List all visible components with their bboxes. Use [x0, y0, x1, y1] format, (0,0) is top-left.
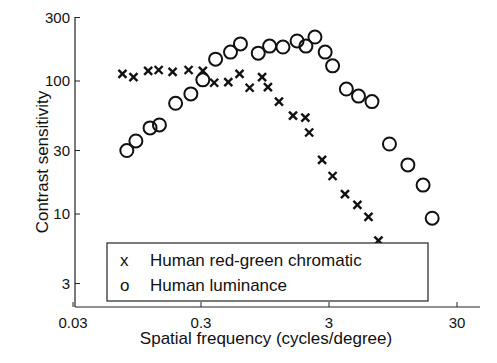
luminance-point — [365, 95, 378, 108]
chromatic-point — [329, 172, 337, 180]
x-tick-label: 0.03 — [58, 314, 87, 331]
luminance-point — [417, 179, 430, 192]
chromatic-point — [275, 98, 283, 106]
chromatic-point — [155, 66, 163, 74]
luminance-point — [129, 134, 142, 147]
luminance-point — [263, 40, 276, 53]
chromatic-point — [305, 128, 313, 136]
chromatic-point — [185, 66, 193, 74]
legend: x Human red-green chromatic o Human lumi… — [107, 243, 428, 301]
chromatic-point — [264, 83, 272, 91]
luminance-point — [352, 90, 365, 103]
chromatic-point — [258, 73, 266, 81]
luminance-point — [426, 212, 439, 225]
chromatic-point — [353, 201, 361, 209]
luminance-point — [401, 158, 414, 171]
chromatic-point — [129, 73, 137, 81]
legend-label-luminance: Human luminance — [150, 276, 287, 295]
x-axis-label: Spatial frequency (cycles/degree) — [140, 329, 392, 348]
data-points — [118, 31, 438, 245]
chromatic-point — [289, 112, 297, 120]
chromatic-point — [246, 84, 254, 92]
legend-symbol-chromatic: x — [120, 251, 129, 270]
luminance-point — [340, 83, 353, 96]
luminance-point — [184, 87, 197, 100]
chromatic-point — [224, 78, 232, 86]
chromatic-point — [364, 213, 372, 221]
y-tick-label: 10 — [53, 205, 70, 222]
luminance-point — [169, 97, 182, 110]
x-tick-label: 30 — [449, 314, 466, 331]
chromatic-point — [210, 79, 218, 87]
chromatic-point — [169, 68, 177, 76]
chromatic-point — [341, 190, 349, 198]
luminance-point — [326, 59, 339, 72]
y-tick-label: 100 — [45, 72, 70, 89]
y-tick-label: 300 — [45, 9, 70, 26]
chromatic-point — [301, 114, 309, 122]
luminance-point — [209, 53, 222, 66]
chromatic-point — [236, 70, 244, 78]
luminance-point — [383, 137, 396, 150]
luminance-point — [196, 73, 209, 86]
chromatic-point — [144, 67, 152, 75]
chromatic-point — [118, 70, 126, 78]
luminance-point — [308, 31, 321, 44]
y-tick-label: 30 — [53, 142, 70, 159]
luminance-point — [234, 37, 247, 50]
contrast-sensitivity-chart: 310301003000.030.3330 Contrast sensitivi… — [0, 0, 497, 363]
legend-label-chromatic: Human red-green chromatic — [150, 251, 362, 270]
chromatic-point — [318, 156, 326, 164]
legend-symbol-luminance: o — [120, 276, 129, 295]
luminance-point — [319, 46, 332, 59]
y-tick-label: 3 — [62, 275, 70, 292]
luminance-point — [276, 41, 289, 54]
y-axis-label: Contrast sensitivity — [33, 90, 52, 233]
